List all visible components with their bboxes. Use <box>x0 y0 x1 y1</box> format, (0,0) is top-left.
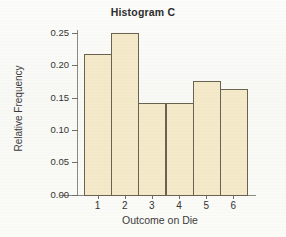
histogram-bar <box>84 54 112 196</box>
x-tick-label: 5 <box>196 200 216 211</box>
x-axis-label: Outcome on Die <box>60 214 260 226</box>
histogram-bar <box>111 33 139 196</box>
y-tick-mark <box>72 195 78 196</box>
y-tick-label: 0.25 <box>29 27 69 38</box>
y-tick-label: 0.05 <box>29 156 69 167</box>
x-tick-label: 6 <box>223 200 243 211</box>
y-axis-label: Relative Frequency <box>13 39 24 179</box>
histogram-figure: Histogram C Relative Frequency Outcome o… <box>0 0 286 237</box>
y-tick-label: 0.20 <box>29 59 69 70</box>
histogram-bar <box>166 103 194 196</box>
x-tick-label: 4 <box>169 200 189 211</box>
x-tick-label: 2 <box>115 200 135 211</box>
histogram-bar <box>220 89 248 196</box>
y-tick-label: 0.15 <box>29 92 69 103</box>
y-tick-mark <box>72 130 78 131</box>
histogram-bar <box>193 81 221 195</box>
histogram-bar <box>138 103 166 196</box>
y-tick-mark <box>72 98 78 99</box>
y-tick-mark <box>72 162 78 163</box>
y-tick-mark <box>72 33 78 34</box>
y-tick-label: 0.10 <box>29 124 69 135</box>
x-tick-label: 3 <box>142 200 162 211</box>
y-tick-mark <box>72 65 78 66</box>
y-tick-label: 0.00 <box>29 189 69 200</box>
y-axis-line <box>77 30 78 196</box>
chart-title: Histogram C <box>0 6 286 18</box>
x-tick-label: 1 <box>88 200 108 211</box>
